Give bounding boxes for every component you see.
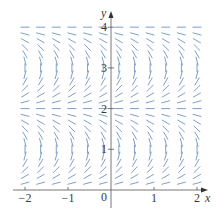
direction-segment <box>178 85 184 91</box>
direction-segment <box>68 93 76 98</box>
direction-segment <box>163 85 169 91</box>
x-tick-label: 2 <box>194 191 200 205</box>
direction-segment <box>37 38 45 42</box>
direction-segment <box>177 93 185 98</box>
direction-segment <box>193 182 202 184</box>
direction-segment <box>130 33 139 35</box>
direction-segment <box>68 38 76 42</box>
direction-segment <box>147 85 153 91</box>
direction-segment <box>37 120 45 124</box>
direction-segment <box>194 85 200 91</box>
direction-segment <box>68 114 77 116</box>
direction-segment <box>36 101 45 103</box>
direction-segment <box>83 33 92 35</box>
direction-segment <box>146 120 154 124</box>
direction-segment <box>177 38 185 42</box>
direction-segment <box>69 85 75 91</box>
direction-segment <box>52 182 61 184</box>
direction-segment <box>177 101 186 103</box>
direction-segment <box>100 166 106 172</box>
direction-segment <box>84 174 92 179</box>
direction-segment <box>146 38 154 42</box>
direction-segment <box>193 101 202 103</box>
direction-segment <box>193 114 202 116</box>
direction-segment <box>177 120 185 124</box>
direction-segment <box>37 93 45 98</box>
direction-segment <box>100 44 106 50</box>
direction-segment <box>163 44 169 50</box>
y-tick-label: 2 <box>101 102 107 116</box>
direction-segment <box>115 174 123 179</box>
direction-segment <box>21 120 29 124</box>
direction-segment <box>161 33 170 35</box>
direction-segment <box>37 174 45 179</box>
direction-segment <box>68 182 77 184</box>
direction-segment <box>131 38 139 42</box>
direction-segment <box>162 38 170 42</box>
direction-segment <box>177 33 186 35</box>
direction-segment <box>83 182 92 184</box>
direction-segment <box>100 126 106 132</box>
y-tick-label: 3 <box>101 61 107 75</box>
direction-segment <box>22 44 28 50</box>
direction-segment <box>37 44 43 50</box>
direction-segment <box>146 174 154 179</box>
direction-segment <box>178 126 184 132</box>
direction-segment <box>115 93 123 98</box>
direction-segment <box>99 93 107 98</box>
direction-segment <box>52 93 60 98</box>
direction-segment <box>162 120 170 124</box>
direction-segment <box>146 182 155 184</box>
direction-segment <box>37 126 43 132</box>
direction-segment <box>116 126 122 132</box>
origin-label: 0 <box>101 190 107 204</box>
direction-segment <box>53 85 59 91</box>
direction-segment <box>52 174 60 179</box>
direction-segment <box>100 85 106 91</box>
direction-segment <box>130 182 139 184</box>
direction-segment <box>114 33 123 35</box>
direction-segment <box>147 126 153 132</box>
direction-segment <box>116 44 122 50</box>
direction-segment <box>21 101 30 103</box>
direction-segment <box>147 166 153 172</box>
direction-segment <box>84 44 90 50</box>
direction-segment <box>99 120 107 124</box>
y-tick-label: 4 <box>101 20 107 34</box>
direction-segment <box>36 33 45 35</box>
direction-segment <box>53 44 59 50</box>
direction-segment <box>162 174 170 179</box>
direction-segment <box>161 101 170 103</box>
direction-segment <box>52 33 61 35</box>
direction-segment <box>178 44 184 50</box>
direction-segment <box>131 85 137 91</box>
direction-segment <box>84 38 92 42</box>
direction-segment <box>84 126 90 132</box>
y-axis-label: y <box>100 6 107 20</box>
direction-segment <box>99 38 107 42</box>
direction-segment <box>178 166 184 172</box>
direction-segment <box>21 174 29 179</box>
direction-segment <box>114 101 123 103</box>
direction-segment <box>114 182 123 184</box>
direction-segment <box>99 174 107 179</box>
direction-segment <box>177 182 186 184</box>
direction-segment <box>21 33 30 35</box>
direction-segment <box>194 44 200 50</box>
direction-segment <box>161 114 170 116</box>
direction-segment <box>146 93 154 98</box>
direction-segment <box>193 174 201 179</box>
direction-segment <box>22 85 28 91</box>
direction-segment <box>162 93 170 98</box>
direction-segment <box>147 44 153 50</box>
direction-segment <box>193 93 201 98</box>
direction-segment <box>68 174 76 179</box>
direction-segment <box>69 126 75 132</box>
direction-segment <box>52 101 61 103</box>
direction-segment <box>115 120 123 124</box>
direction-segment <box>83 101 92 103</box>
direction-segment <box>21 38 29 42</box>
direction-segment <box>116 166 122 172</box>
direction-segment <box>36 114 45 116</box>
direction-segment <box>193 120 201 124</box>
